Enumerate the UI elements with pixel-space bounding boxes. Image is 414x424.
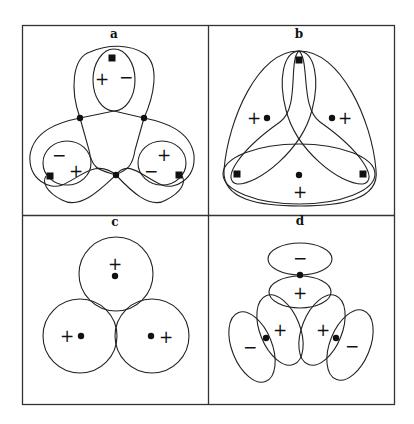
panel-a-sign-minus: −	[144, 161, 158, 181]
panel-d-sign-plus: +	[293, 283, 307, 303]
panel-label-d: d	[296, 214, 305, 228]
panel-b-square-marker	[360, 171, 367, 178]
panel-label-a: a	[110, 27, 118, 41]
panel-a-sign-plus: +	[157, 145, 171, 165]
panel-c-sign-plus: +	[60, 326, 74, 346]
panel-d-sign-minus: −	[345, 336, 359, 356]
panel-b-nucleus-dot	[264, 115, 270, 121]
panel-a-nucleus-dot	[77, 115, 83, 121]
panel-b-nucleus-dot	[329, 115, 335, 121]
panel-c-nucleus-dot	[112, 273, 118, 279]
panel-d-sign-minus: −	[293, 248, 307, 268]
panel-a-square-marker	[176, 172, 183, 179]
panel-a-nucleus-dot	[141, 115, 147, 121]
panel-a-top-lobe-base	[80, 111, 144, 118]
panel-d-nucleus-dot	[333, 335, 339, 341]
panel-d-sign-plus: +	[273, 320, 287, 340]
panel-b-square-marker	[296, 57, 303, 64]
panel-a-right-link	[116, 118, 144, 175]
panel-b-square-marker	[234, 171, 241, 178]
panel-c-sign-plus: +	[159, 327, 173, 347]
panel-a	[30, 46, 194, 202]
panel-b-left-leaf	[231, 51, 316, 184]
panel-b-sign-plus: +	[247, 108, 261, 128]
panel-b-sign-plus: +	[293, 182, 307, 202]
panel-label-b: b	[295, 27, 303, 41]
panel-d-sign-minus: −	[243, 337, 257, 357]
panel-d-nucleus-dot	[297, 272, 303, 278]
panel-a-square-marker	[109, 55, 116, 62]
panel-label-c: c	[111, 215, 118, 229]
panel-a-left-link	[80, 118, 116, 175]
panel-b-sign-plus: +	[338, 108, 352, 128]
panel-a-sign-plus: +	[95, 69, 109, 89]
panel-c-nucleus-dot	[78, 333, 84, 339]
panel-a-sign-minus: −	[119, 67, 133, 87]
panel-c-sign-plus: +	[108, 254, 122, 274]
panel-b-right-leaf	[282, 51, 369, 184]
orbital-diagram-figure: a b c d	[0, 0, 414, 424]
panel-c-nucleus-dot	[148, 333, 154, 339]
panel-a-nucleus-dot	[113, 172, 119, 178]
panel-d-sign-plus: +	[316, 320, 330, 340]
panel-a-sign-plus: +	[69, 161, 83, 181]
panel-b-nucleus-dot	[296, 172, 302, 178]
panel-d-nucleus-dot	[263, 335, 269, 341]
panel-a-square-marker	[47, 173, 54, 180]
panel-a-sign-minus: −	[52, 145, 66, 165]
